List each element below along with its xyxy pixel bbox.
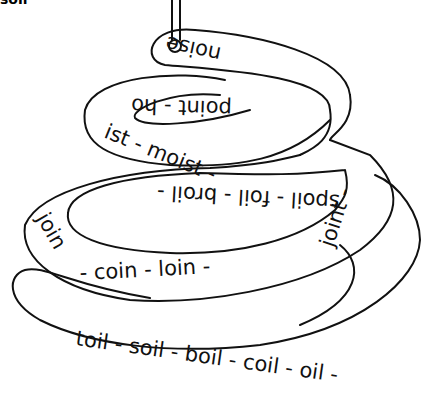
word-toil: toil - soil - boil - coil - oil - bbox=[74, 326, 339, 387]
word-join: join bbox=[31, 208, 71, 254]
word-point: point - ho bbox=[131, 93, 232, 120]
coil-illustration: noise point - ho ist - moist - spoil - f… bbox=[0, 0, 432, 397]
word-coin: - coin - loin - bbox=[79, 254, 211, 285]
word-noise: noise bbox=[163, 31, 223, 66]
word-spoil: spoil - foil - broil - bbox=[156, 180, 340, 214]
